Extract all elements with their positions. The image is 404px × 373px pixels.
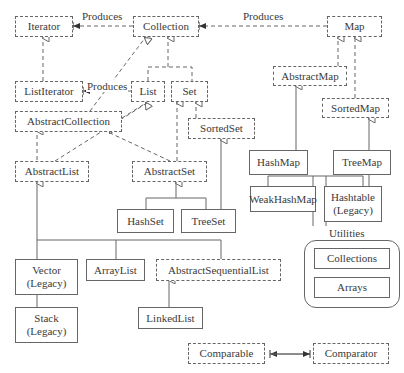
- hashtable-node: Hashtable (Legacy): [324, 186, 382, 222]
- produces-label: Produces: [81, 10, 123, 22]
- treeset-node: TreeSet: [181, 209, 236, 233]
- legacy-note: (Legacy): [333, 204, 373, 217]
- abstractset-node: AbstractSet: [132, 161, 207, 182]
- arraylist-node: ArrayList: [86, 259, 145, 281]
- treemap-node: TreeMap: [333, 150, 391, 175]
- comparator-node: Comparator: [313, 343, 389, 364]
- abstractmap-node: AbstractMap: [273, 66, 347, 86]
- legacy-note: (Legacy): [27, 277, 67, 290]
- abstractcollection-node: AbstractCollection: [15, 111, 122, 132]
- hashset-node: HashSet: [117, 209, 174, 233]
- weakhashmap-node: WeakHashMap: [250, 186, 316, 212]
- stack-node: Stack (Legacy): [15, 307, 78, 343]
- map-node: Map: [327, 16, 382, 37]
- linkedlist-node: LinkedList: [138, 307, 203, 329]
- stack-label: Stack: [34, 312, 58, 325]
- vector-node: Vector (Legacy): [15, 259, 78, 295]
- arrays-node: Arrays: [314, 277, 390, 298]
- produces-label: Produces: [242, 10, 284, 22]
- comparable-node: Comparable: [188, 343, 265, 364]
- collections-node: Collections: [314, 248, 390, 269]
- abstractsequentiallist-node: AbstractSequentialList: [156, 259, 281, 281]
- sortedset-node: SortedSet: [188, 118, 255, 139]
- utilities-label: Utilities: [328, 227, 365, 239]
- iterator-node: Iterator: [15, 16, 73, 37]
- hashmap-node: HashMap: [249, 150, 308, 175]
- hashtable-label: Hashtable: [331, 191, 375, 204]
- set-node: Set: [171, 81, 208, 102]
- list-node: List: [131, 81, 165, 102]
- vector-label: Vector: [32, 264, 61, 277]
- legacy-note: (Legacy): [27, 325, 67, 338]
- abstractlist-node: AbstractList: [15, 161, 89, 182]
- collection-node: Collection: [133, 16, 199, 37]
- collections-framework-diagram: Produces Produces Produces Iterator Coll…: [0, 0, 404, 373]
- produces-label: Produces: [86, 80, 128, 92]
- listiterator-node: ListIterator: [15, 81, 83, 102]
- sortedmap-node: SortedMap: [322, 98, 389, 118]
